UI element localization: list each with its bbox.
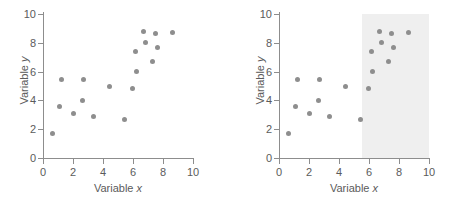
x-axis-tick-label: 4 — [93, 167, 113, 178]
data-point — [391, 45, 396, 50]
x-axis-tick-label: 2 — [63, 167, 83, 178]
y-axis-tick-label-wrap: 2 — [10, 124, 36, 135]
data-point — [153, 31, 158, 36]
data-point — [130, 86, 135, 91]
data-point — [389, 31, 394, 36]
y-axis-tick-label: 10 — [250, 9, 272, 20]
x-axis-tick — [399, 159, 400, 164]
data-point — [170, 30, 175, 35]
x-axis-title: Variable x — [43, 183, 193, 194]
highlight-region — [362, 14, 430, 158]
x-axis-title: Variable x — [279, 183, 429, 194]
data-point — [50, 131, 55, 136]
scatter-plot-shaded: 02468100246810Variable xVariable y — [236, 0, 471, 200]
data-point — [71, 111, 76, 116]
data-point — [107, 84, 112, 89]
y-axis-title-host: Variable y — [250, 0, 251, 1]
data-point — [91, 114, 96, 119]
data-point — [80, 98, 85, 103]
x-axis-tick-label: 10 — [419, 167, 439, 178]
x-axis-tick — [43, 159, 44, 164]
data-point — [150, 59, 155, 64]
y-axis-line — [279, 12, 280, 160]
x-axis-tick — [369, 159, 370, 164]
data-point — [141, 29, 146, 34]
x-axis-tick-label: 2 — [299, 167, 319, 178]
x-axis-tick — [309, 159, 310, 164]
data-point — [295, 77, 300, 82]
data-point — [386, 59, 391, 64]
y-axis-title: Variable y — [255, 41, 266, 121]
data-point — [369, 49, 374, 54]
x-axis-tick — [429, 159, 430, 164]
two-panel-scatter-figure: 02468100246810Variable xVariable y 02468… — [0, 0, 471, 200]
y-axis-tick-label-wrap: 10 — [10, 9, 36, 20]
x-axis-tick-label: 0 — [269, 167, 289, 178]
x-axis-tick-label: 8 — [389, 167, 409, 178]
y-axis-tick-label-wrap: 2 — [246, 124, 272, 135]
data-point — [317, 77, 322, 82]
data-point — [122, 117, 127, 122]
y-axis-tick-label: 2 — [14, 124, 36, 135]
x-axis-tick — [163, 159, 164, 164]
x-axis-tick-label: 8 — [153, 167, 173, 178]
y-axis-tick-label: 0 — [14, 153, 36, 164]
data-point — [155, 45, 160, 50]
data-point — [343, 84, 348, 89]
data-point — [133, 49, 138, 54]
y-axis-tick — [38, 72, 43, 73]
x-axis-tick — [339, 159, 340, 164]
y-axis-tick — [38, 129, 43, 130]
x-axis-tick — [279, 159, 280, 164]
y-axis-tick-label: 10 — [14, 9, 36, 20]
y-axis-tick — [274, 100, 279, 101]
y-axis-tick-label-wrap: 0 — [10, 153, 36, 164]
y-axis-tick-label: 0 — [250, 153, 272, 164]
x-axis-tick-label: 6 — [359, 167, 379, 178]
y-axis-tick — [274, 43, 279, 44]
x-axis-tick-label: 6 — [123, 167, 143, 178]
y-axis-tick — [274, 14, 279, 15]
scatter-plot-unshaded: 02468100246810Variable xVariable y — [0, 0, 236, 200]
data-point — [81, 77, 86, 82]
y-axis-tick — [38, 14, 43, 15]
x-axis-tick — [193, 159, 194, 164]
y-axis-line — [43, 12, 44, 160]
x-axis-tick-label: 4 — [329, 167, 349, 178]
y-axis-title-host: Variable y — [14, 0, 15, 1]
data-point — [143, 40, 148, 45]
x-axis-tick — [103, 159, 104, 164]
x-axis-line — [278, 158, 430, 159]
y-axis-tick — [274, 72, 279, 73]
data-point — [358, 117, 363, 122]
data-point — [286, 131, 291, 136]
data-point — [316, 98, 321, 103]
y-axis-title: Variable y — [19, 41, 30, 121]
y-axis-tick — [38, 43, 43, 44]
data-point — [134, 69, 139, 74]
x-axis-tick — [73, 159, 74, 164]
y-axis-tick-label-wrap: 0 — [246, 153, 272, 164]
x-axis-tick-label: 10 — [183, 167, 203, 178]
data-point — [293, 104, 298, 109]
x-axis-line — [42, 158, 194, 159]
y-axis-tick-label-wrap: 10 — [246, 9, 272, 20]
y-axis-tick-label: 2 — [250, 124, 272, 135]
data-point — [406, 30, 411, 35]
data-point — [366, 86, 371, 91]
data-point — [379, 40, 384, 45]
y-axis-tick — [274, 129, 279, 130]
x-axis-tick-label: 0 — [33, 167, 53, 178]
data-point — [377, 29, 382, 34]
data-point — [307, 111, 312, 116]
y-axis-tick — [38, 100, 43, 101]
data-point — [327, 114, 332, 119]
x-axis-tick — [133, 159, 134, 164]
data-point — [57, 104, 62, 109]
data-point — [59, 77, 64, 82]
